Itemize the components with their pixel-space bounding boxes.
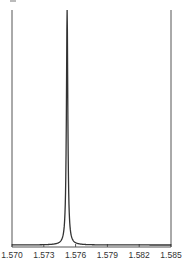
cropped-label-fragment <box>10 0 16 2</box>
x-tick-label: 1.570 <box>1 250 23 260</box>
x-tick-label: 1.582 <box>129 250 151 260</box>
x-tick-label: 1.576 <box>65 250 87 260</box>
x-tick-label: 1.573 <box>33 250 55 260</box>
x-tick-label: 1.585 <box>160 250 182 260</box>
chart-background <box>0 0 187 263</box>
x-tick-label: 1.579 <box>97 250 119 260</box>
spectrum-chart: 1.5701.5731.5761.5791.5821.585 <box>0 0 187 263</box>
